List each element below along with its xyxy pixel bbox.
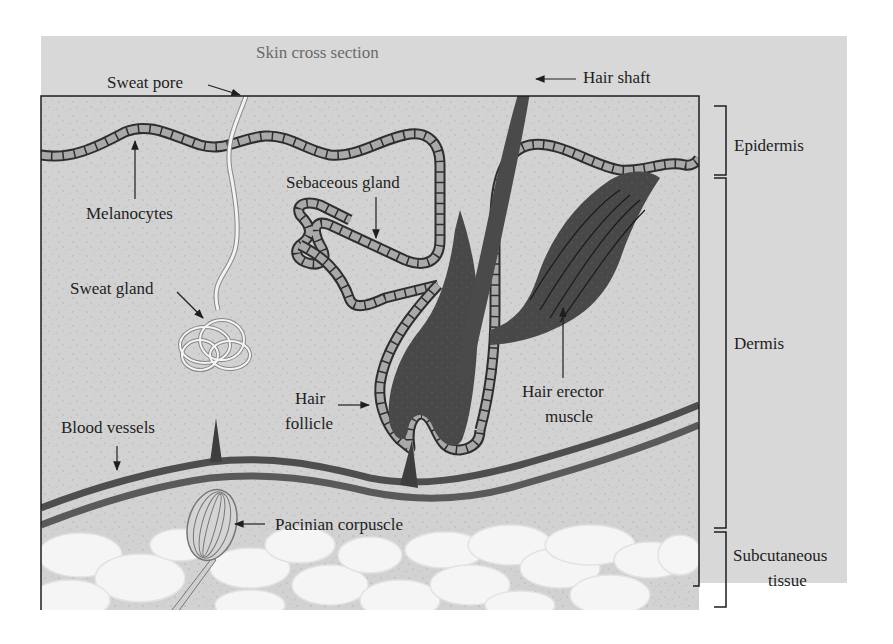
layer-label-subcutaneous-2: tissue (768, 571, 807, 590)
label-pacinian-corpuscle: Pacinian corpuscle (275, 515, 403, 534)
label-sebaceous-gland: Sebaceous gland (286, 173, 400, 192)
label-melanocytes: Melanocytes (86, 204, 173, 223)
label-hair-follicle-2: follicle (285, 414, 333, 433)
diagram-title: Skin cross section (256, 43, 379, 62)
label-sweat-pore: Sweat pore (107, 73, 183, 92)
label-hair-shaft: Hair shaft (583, 68, 651, 87)
label-sweat-gland: Sweat gland (70, 279, 154, 298)
label-hair-erector-1: Hair erector (522, 382, 604, 401)
skin-cross-section-diagram: Skin cross section Sweat pore Hair shaft… (0, 0, 893, 644)
label-hair-erector-2: muscle (545, 407, 593, 426)
label-hair-follicle-1: Hair (295, 389, 326, 408)
layer-label-subcutaneous-1: Subcutaneous (733, 546, 827, 565)
layer-label-dermis: Dermis (734, 334, 784, 353)
label-blood-vessels: Blood vessels (61, 418, 155, 437)
layer-label-epidermis: Epidermis (734, 136, 804, 155)
